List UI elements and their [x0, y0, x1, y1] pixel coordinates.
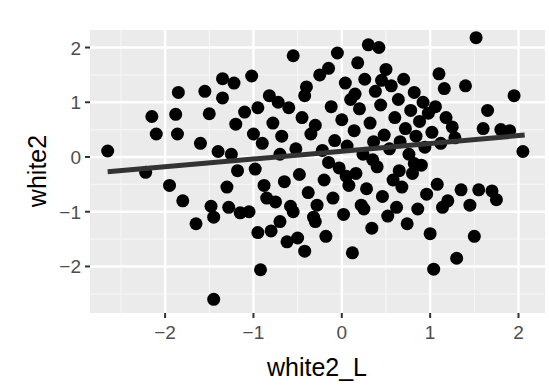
data-point	[455, 183, 468, 196]
data-point	[245, 69, 258, 82]
data-point	[282, 101, 295, 114]
y-tick-label: 2	[70, 38, 81, 59]
data-point	[256, 137, 269, 150]
data-point	[463, 199, 476, 212]
data-point	[216, 72, 229, 85]
data-point	[298, 89, 311, 102]
data-point	[243, 205, 256, 218]
data-point	[293, 168, 306, 181]
data-point	[339, 77, 352, 90]
data-point	[337, 208, 350, 221]
data-point	[222, 201, 235, 214]
data-point	[251, 101, 264, 114]
data-point	[266, 117, 279, 130]
data-point	[203, 107, 216, 120]
x-tick-label: 1	[425, 322, 436, 343]
y-tick-label: −1	[59, 202, 81, 223]
data-point	[395, 181, 408, 194]
data-point	[335, 113, 348, 126]
data-point	[441, 194, 454, 207]
data-point	[349, 88, 362, 101]
data-point	[388, 111, 401, 124]
data-point	[254, 263, 267, 276]
y-axis-title: white2	[23, 135, 51, 208]
data-point	[171, 128, 184, 141]
data-point	[490, 193, 503, 206]
x-tick-label: 2	[513, 322, 524, 343]
data-point	[302, 186, 315, 199]
data-point	[366, 153, 379, 166]
data-point	[375, 74, 388, 87]
data-point	[145, 110, 158, 123]
data-point	[205, 200, 218, 213]
data-point	[516, 145, 529, 158]
data-point	[326, 192, 339, 205]
data-point	[229, 118, 242, 131]
data-point	[364, 117, 377, 130]
data-point	[249, 163, 262, 176]
y-tick-label: 0	[70, 147, 81, 168]
data-point	[508, 89, 521, 102]
data-point	[372, 41, 385, 54]
data-point	[309, 119, 322, 132]
data-point	[278, 175, 291, 188]
data-point	[216, 91, 229, 104]
data-point	[390, 201, 403, 214]
data-point	[207, 211, 220, 224]
data-point	[374, 98, 387, 111]
data-point	[470, 31, 483, 44]
data-point	[358, 73, 371, 86]
data-point	[424, 227, 437, 240]
data-point	[365, 222, 378, 235]
data-point	[258, 179, 271, 192]
data-point	[438, 82, 451, 95]
data-point	[411, 202, 424, 215]
data-point	[172, 86, 185, 99]
data-point	[468, 230, 481, 243]
data-point	[328, 134, 341, 147]
data-point	[322, 62, 335, 75]
data-point	[190, 217, 203, 230]
data-point	[399, 122, 412, 135]
data-point	[404, 104, 417, 117]
data-point	[346, 246, 359, 259]
data-point	[408, 86, 421, 99]
data-point	[459, 79, 472, 92]
data-point	[472, 183, 485, 196]
data-point	[298, 245, 311, 258]
data-point	[231, 164, 244, 177]
data-point	[273, 215, 286, 228]
data-point	[392, 93, 405, 106]
data-point	[429, 100, 442, 113]
data-point	[169, 108, 182, 121]
data-point	[309, 215, 322, 228]
data-point	[360, 182, 373, 195]
data-point	[163, 179, 176, 192]
data-point	[228, 77, 241, 90]
data-point	[340, 170, 353, 183]
data-point	[150, 128, 163, 141]
data-point	[101, 144, 114, 157]
x-tick-label: 0	[337, 322, 348, 343]
data-point	[348, 124, 361, 137]
scatter-chart: −2−1012 −2−1012 white2_L white2	[0, 0, 549, 391]
data-point	[408, 157, 421, 170]
data-point	[425, 126, 438, 139]
y-tick-label: 1	[70, 92, 81, 113]
data-point	[450, 252, 463, 265]
data-point	[376, 190, 389, 203]
data-point	[287, 49, 300, 62]
data-point	[291, 232, 304, 245]
data-point	[401, 217, 414, 230]
data-point	[322, 156, 335, 169]
data-point	[251, 226, 264, 239]
x-tick-label: −2	[154, 322, 176, 343]
data-point	[194, 137, 207, 150]
data-point	[378, 129, 391, 142]
data-point	[331, 46, 344, 59]
data-point	[397, 73, 410, 86]
data-point	[431, 178, 444, 191]
data-point	[393, 164, 406, 177]
data-point	[238, 106, 251, 119]
data-point	[207, 293, 220, 306]
